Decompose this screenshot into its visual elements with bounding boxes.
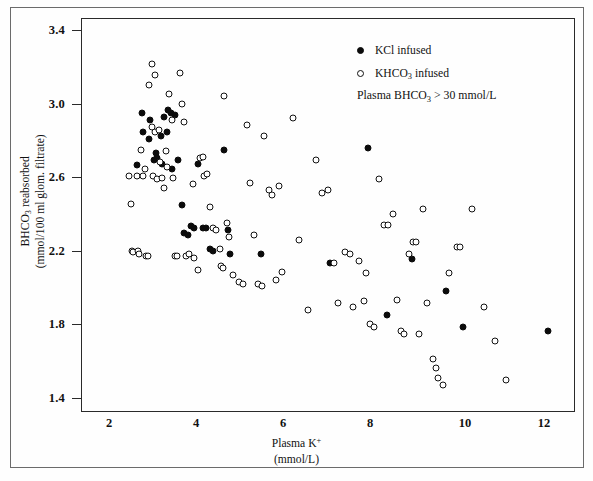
- data-point-khco3: [491, 338, 498, 345]
- data-point-khco3: [305, 307, 312, 314]
- data-point-khco3: [170, 174, 177, 181]
- data-point-khco3: [226, 233, 233, 240]
- data-point-khco3: [244, 122, 251, 129]
- data-point-khco3: [457, 244, 464, 251]
- data-point-kcl: [138, 110, 145, 117]
- data-point-kcl: [225, 226, 232, 233]
- data-point-khco3: [180, 118, 187, 125]
- filled-circle-icon: [357, 47, 364, 54]
- data-point-khco3: [177, 69, 184, 76]
- data-point-khco3: [424, 300, 431, 307]
- plot-data-area: [81, 18, 575, 412]
- data-point-kcl: [443, 287, 450, 294]
- data-point-kcl: [364, 144, 371, 151]
- data-point-khco3: [206, 204, 213, 211]
- data-point-kcl: [147, 116, 154, 123]
- data-point-khco3: [430, 355, 437, 362]
- data-point-kcl: [545, 327, 552, 334]
- data-point-kcl: [221, 146, 228, 153]
- data-point-kcl: [133, 162, 140, 169]
- data-point-khco3: [169, 116, 176, 123]
- data-point-khco3: [312, 157, 319, 164]
- data-point-khco3: [371, 324, 378, 331]
- data-point-kcl: [257, 251, 264, 258]
- data-point-khco3: [261, 132, 268, 139]
- data-point-khco3: [221, 92, 228, 99]
- data-point-khco3: [136, 251, 143, 258]
- data-point-khco3: [347, 251, 354, 258]
- data-point-kcl: [226, 251, 233, 258]
- data-point-khco3: [189, 181, 196, 188]
- data-point-khco3: [268, 191, 275, 198]
- data-point-kcl: [209, 247, 216, 254]
- data-point-khco3: [480, 303, 487, 310]
- data-point-khco3: [139, 172, 146, 179]
- data-point-khco3: [152, 71, 159, 78]
- data-point-kcl: [185, 232, 192, 239]
- data-point-khco3: [164, 164, 171, 171]
- y-tick-mark: [72, 398, 81, 399]
- y-tick-label: 3.4: [25, 23, 65, 38]
- data-point-khco3: [419, 205, 426, 212]
- y-tick-mark: [72, 251, 81, 252]
- data-point-khco3: [406, 251, 413, 258]
- data-point-khco3: [174, 252, 181, 259]
- x-axis-title-units: (mmol/L): [274, 453, 319, 466]
- x-tick-label: 2: [89, 416, 129, 431]
- data-point-khco3: [138, 146, 145, 153]
- y-tick-mark: [72, 104, 81, 105]
- data-point-kcl: [178, 202, 185, 209]
- data-point-khco3: [401, 331, 408, 338]
- data-point-khco3: [393, 296, 400, 303]
- x-tick-label: 8: [350, 416, 390, 431]
- x-axis-title-line1: Plasma K+: [272, 437, 321, 450]
- legend-annotation: Plasma BHCO3 > 30 mmol/L: [357, 90, 496, 102]
- legend-label-kcl: KCl infused: [375, 45, 431, 57]
- data-point-kcl: [203, 225, 210, 232]
- data-point-khco3: [216, 246, 223, 253]
- data-point-khco3: [468, 205, 475, 212]
- data-point-khco3: [250, 232, 257, 239]
- legend: KCl infused KHCO3 infused Plasma BHCO3 >…: [357, 45, 496, 102]
- y-tick-mark: [72, 324, 81, 325]
- data-point-khco3: [416, 331, 423, 338]
- data-point-khco3: [220, 265, 227, 272]
- legend-item-kcl: KCl infused: [357, 45, 496, 57]
- data-point-kcl: [191, 225, 198, 232]
- data-point-khco3: [145, 82, 152, 89]
- data-point-khco3: [296, 237, 303, 244]
- data-point-khco3: [157, 158, 164, 165]
- data-point-kcl: [163, 129, 170, 136]
- x-axis-title: Plasma K+ (mmol/L): [0, 436, 593, 469]
- data-point-khco3: [160, 184, 167, 191]
- data-point-khco3: [279, 268, 286, 275]
- data-point-khco3: [363, 270, 370, 277]
- legend-item-khco3: KHCO3 infused: [357, 68, 496, 80]
- data-point-khco3: [389, 211, 396, 218]
- y-axis-title-line1: BHCO3 reabsorbed: [19, 156, 32, 246]
- data-point-khco3: [213, 226, 220, 233]
- x-tick-label: 4: [176, 416, 216, 431]
- data-point-khco3: [360, 298, 367, 305]
- data-point-khco3: [199, 153, 206, 160]
- x-tick-label: 12: [524, 416, 564, 431]
- data-point-khco3: [230, 272, 237, 279]
- data-point-khco3: [272, 277, 279, 284]
- data-point-khco3: [325, 186, 332, 193]
- data-point-khco3: [191, 254, 198, 261]
- data-point-khco3: [125, 172, 132, 179]
- data-point-khco3: [194, 266, 201, 273]
- data-point-khco3: [349, 303, 356, 310]
- y-axis-title: BHCO3 reabsorbed (mmol/100 ml glom. filt…: [18, 96, 49, 306]
- data-point-khco3: [355, 258, 362, 265]
- data-point-khco3: [223, 219, 230, 226]
- data-point-khco3: [440, 381, 447, 388]
- data-point-khco3: [446, 270, 453, 277]
- data-point-khco3: [155, 127, 162, 134]
- data-point-khco3: [162, 148, 169, 155]
- data-point-kcl: [139, 129, 146, 136]
- data-point-khco3: [375, 176, 382, 183]
- data-point-khco3: [148, 61, 155, 68]
- data-point-khco3: [275, 183, 282, 190]
- open-circle-icon: [357, 70, 364, 77]
